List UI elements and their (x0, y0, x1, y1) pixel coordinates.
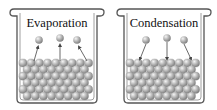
liquid-molecule (72, 92, 80, 100)
liquid-molecule (187, 92, 195, 100)
vapor-molecule (35, 36, 43, 44)
vapor-molecule (163, 34, 171, 42)
liquid-molecule (56, 92, 64, 100)
vapor-molecule (56, 34, 64, 42)
liquid-molecule (138, 92, 146, 100)
liquid-molecule (39, 92, 47, 100)
vapor-molecule (180, 36, 188, 44)
liquid-molecule (23, 92, 31, 100)
condensation-beaker: Condensation (107, 0, 217, 110)
evaporation-beaker: Evaporation (0, 0, 110, 110)
liquid-molecule (31, 92, 39, 100)
liquid-molecule (155, 92, 163, 100)
panel-title: Evaporation (26, 16, 88, 30)
liquid-molecule (179, 92, 187, 100)
liquid-molecule (163, 92, 171, 100)
panel-title: Condensation (130, 16, 199, 30)
vapor-molecule (142, 36, 150, 44)
liquid-molecule (64, 92, 72, 100)
liquid-molecule (171, 92, 179, 100)
liquid-molecule (80, 92, 88, 100)
liquid-molecule (146, 92, 154, 100)
liquid-molecule (130, 92, 138, 100)
liquid-molecule (48, 92, 56, 100)
vapor-molecule (73, 36, 81, 44)
